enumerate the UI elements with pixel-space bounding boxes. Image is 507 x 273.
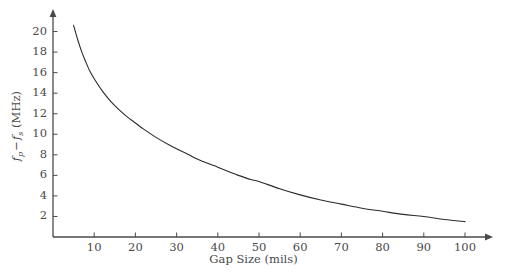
y-tick-label: 4 (9, 190, 47, 202)
x-axis-arrow-icon (485, 234, 493, 241)
y-axis-minus: − (9, 141, 23, 151)
y-axis-var-fp: f (9, 157, 23, 161)
x-tick-marks (94, 233, 465, 238)
x-axis-title: Gap Size (mils) (0, 252, 507, 266)
y-axis-sub-p: p (16, 152, 25, 157)
y-tick-label: 18 (9, 46, 47, 58)
y-tick-label: 20 (9, 26, 47, 38)
axes-group (50, 9, 493, 240)
plot-area (0, 0, 507, 273)
y-tick-marks (53, 32, 58, 217)
y-axis-title: fp − fs (MHz) (9, 71, 25, 181)
y-axis-arrow-icon (50, 9, 57, 17)
y-tick-label: 2 (9, 210, 47, 222)
y-axis-var-fs: f (9, 136, 23, 140)
data-series-curve (74, 25, 465, 221)
chart-figure: 102030405060708090100 2468101214161820 G… (0, 0, 507, 273)
y-axis-units: (MHz) (9, 91, 23, 128)
y-axis-sub-s: s (16, 132, 25, 136)
